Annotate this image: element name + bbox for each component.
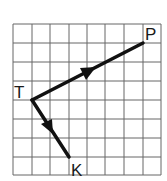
vector-diagram	[0, 0, 167, 181]
label-p: P	[145, 26, 156, 43]
label-k: K	[71, 162, 82, 179]
label-t: T	[14, 84, 24, 101]
